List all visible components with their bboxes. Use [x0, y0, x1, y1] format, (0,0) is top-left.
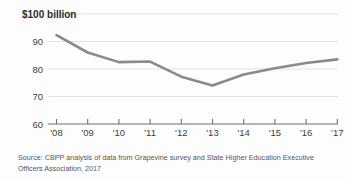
x-axis-tick-label-15: '15 [269, 127, 281, 138]
y-axis-tick-label-90: 90 [32, 36, 43, 47]
line-chart-plot: $100 billion 90 80 70 60 '08 '09 '10 '11… [0, 0, 346, 152]
x-axis-tick-label-09: '09 [82, 127, 94, 138]
y-axis-tick-label-80: 80 [32, 64, 43, 75]
x-axis-tick-label-14: '14 [238, 127, 250, 138]
y-axis-unit-label: $100 billion [22, 9, 76, 20]
x-axis-tick-label-17: '17 [331, 127, 343, 138]
x-axis-tick-label-13: '13 [206, 127, 218, 138]
x-axis-labels-group: '08 '09 '10 '11 '12 '13 '14 '15 '16 '17 [50, 127, 343, 138]
source-note-line-2: Officers Association, 2017 [18, 164, 334, 175]
data-series-line [57, 35, 338, 85]
y-axis-tick-label-60: 60 [32, 119, 43, 130]
source-note-line-1: Source: CBPP analysis of data from Grape… [18, 153, 334, 164]
x-axis-tick-label-10: '10 [113, 127, 125, 138]
x-axis-tick-label-12: '12 [175, 127, 187, 138]
y-axis-tick-label-70: 70 [32, 91, 43, 102]
x-axis-tick-label-11: '11 [144, 127, 156, 138]
x-axis-ticks-group [57, 119, 338, 124]
chart-figure: $100 billion 90 80 70 60 '08 '09 '10 '11… [0, 0, 346, 179]
x-axis-tick-label-16: '16 [300, 127, 312, 138]
source-note: Source: CBPP analysis of data from Grape… [18, 153, 334, 175]
gridlines-group [48, 14, 338, 97]
x-axis-tick-label-08: '08 [50, 127, 62, 138]
